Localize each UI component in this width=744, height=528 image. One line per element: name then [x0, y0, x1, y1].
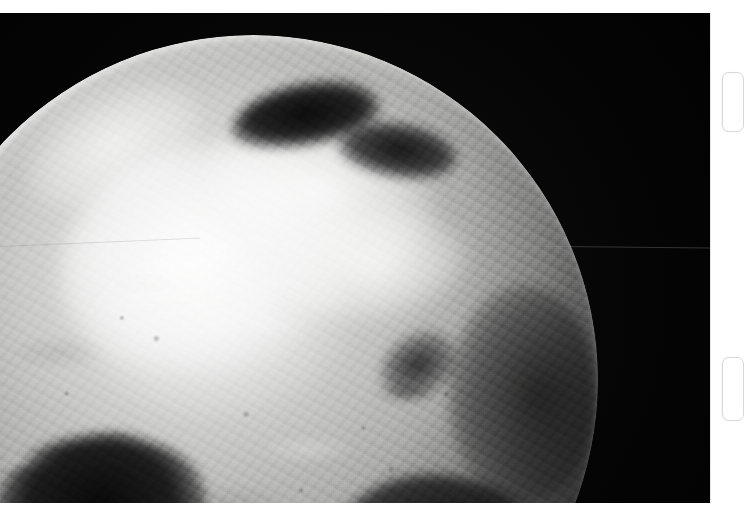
card-edge-top — [722, 72, 744, 132]
plate-edge-seam — [710, 13, 711, 503]
shadowed-limb-east — [448, 285, 598, 503]
earth-photograph — [0, 13, 710, 503]
card-edge-bottom — [722, 357, 744, 421]
